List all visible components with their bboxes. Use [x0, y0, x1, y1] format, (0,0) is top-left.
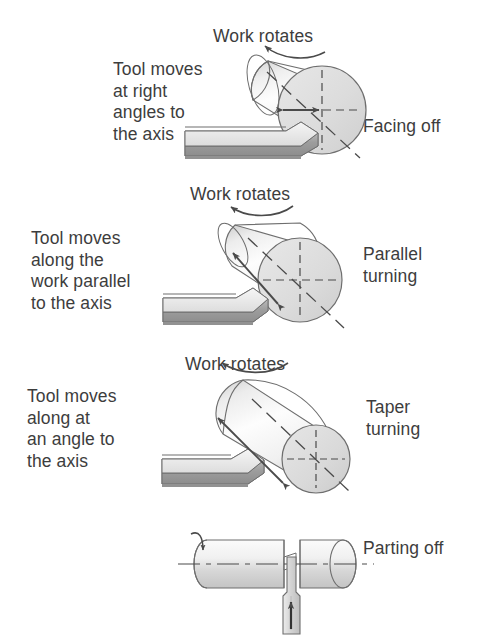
cutting-tool-facing [185, 122, 318, 158]
rotation-arrow-taper [222, 363, 288, 372]
cropped-caption-row [0, 612, 484, 639]
cutting-tool-parallel [163, 288, 268, 324]
panel-parallel-turning: Work rotates Tool moves along the work p… [0, 180, 484, 352]
panel-taper-turning: Work rotates Tool moves along at an angl… [0, 352, 484, 510]
panel-facing-off: Work rotates Tool moves at right angles … [0, 0, 484, 180]
facing-off-illustration [0, 0, 484, 180]
taper-turning-illustration [0, 352, 484, 510]
cutting-tool-taper [162, 449, 264, 486]
parallel-turning-illustration [0, 180, 484, 352]
rotation-arrow-facing [265, 46, 325, 58]
rotation-arrow-parallel [231, 206, 293, 216]
